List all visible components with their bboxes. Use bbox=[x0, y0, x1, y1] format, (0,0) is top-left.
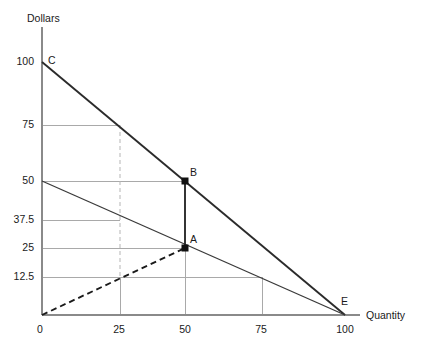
point-label-a: A bbox=[190, 234, 197, 245]
chart-canvas bbox=[0, 0, 422, 349]
marker-point-a bbox=[182, 245, 189, 252]
y-tick-label-50: 50 bbox=[0, 175, 34, 186]
point-label-b: B bbox=[190, 167, 197, 178]
x-tick-label-25: 25 bbox=[104, 324, 134, 335]
marginal-cost-dashed-line bbox=[42, 248, 185, 315]
y-tick-label-12-5: 12.5 bbox=[0, 271, 34, 282]
y-axis-title: Dollars bbox=[27, 13, 60, 24]
x-axis-title: Quantity bbox=[366, 310, 405, 321]
x-tick-label-50: 50 bbox=[170, 324, 200, 335]
y-tick-label-25: 25 bbox=[0, 242, 34, 253]
x-tick-label-75: 75 bbox=[246, 324, 276, 335]
y-tick-label-37-5: 37.5 bbox=[0, 214, 34, 225]
chart-figure: Dollars Quantity 100 75 50 37.5 25 12.5 … bbox=[0, 0, 422, 349]
x-tick-label-100: 100 bbox=[330, 324, 360, 335]
y-tick-label-100: 100 bbox=[0, 56, 34, 67]
x-tick-label-0: 0 bbox=[25, 324, 55, 335]
marker-point-b bbox=[182, 178, 189, 185]
y-tick-label-75: 75 bbox=[0, 119, 34, 130]
point-label-e: E bbox=[341, 296, 348, 307]
point-label-c: C bbox=[48, 55, 56, 66]
